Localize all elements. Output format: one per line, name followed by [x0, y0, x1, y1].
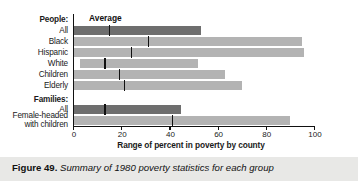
average-tick-people-all [109, 25, 110, 36]
x-tick-60 [218, 126, 219, 130]
average-tick-people-children [119, 69, 120, 80]
row-label-people-elderly: Elderly [0, 80, 68, 91]
row-label-people-black: Black [0, 36, 68, 47]
chart-plot-area: People: Average All Black Hispanic White [0, 0, 358, 152]
x-tick-label-0: 0 [72, 130, 76, 139]
average-tick-people-hispanic [131, 47, 132, 58]
x-tick-20 [121, 126, 122, 130]
x-tick-100 [314, 126, 315, 130]
chart-row-people-elderly: Elderly [0, 80, 358, 91]
figure-caption: Figure 49. Summary of 1980 poverty stati… [12, 162, 274, 173]
bar-people-black [73, 37, 302, 46]
x-tick-label-20: 20 [118, 130, 127, 139]
row-label-people-all: All [0, 25, 68, 36]
chart-row-people-white: White [0, 58, 358, 69]
x-tick-label-100: 100 [308, 130, 321, 139]
row-label-line-2: with children [0, 121, 68, 130]
x-axis-title: Range of percent in poverty by county [117, 140, 265, 150]
group-heading-people-row: People: [0, 14, 358, 25]
row-label-families-female-headed: Female-headed with children [0, 112, 68, 130]
chart-row-people-all: All [0, 25, 358, 36]
bar-people-white [80, 59, 198, 68]
row-label-people-white: White [0, 58, 68, 69]
x-tick-40 [169, 126, 170, 130]
x-tick-0 [73, 126, 74, 130]
average-annotation: Average [89, 13, 122, 23]
caption-divider [0, 155, 358, 156]
figure-caption-label: Figure 49. [12, 162, 57, 173]
row-label-people-hispanic: Hispanic [0, 47, 68, 58]
average-tick-families-female-headed [172, 115, 173, 126]
bar-people-hispanic [73, 48, 304, 57]
figure-caption-band: Figure 49. Summary of 1980 poverty stati… [0, 157, 358, 181]
x-axis-title-wrapper: Range of percent in poverty by county [0, 140, 358, 150]
x-tick-label-60: 60 [214, 130, 223, 139]
chart-row-people-children: Children [0, 69, 358, 80]
figure-caption-text: Summary of 1980 poverty statistics for e… [60, 162, 274, 173]
bar-people-elderly [73, 81, 242, 90]
bar-families-all [73, 105, 181, 114]
average-tick-people-white [104, 58, 105, 69]
figure-poverty-statistics: People: Average All Black Hispanic White [0, 0, 358, 181]
chart-row-people-black: Black [0, 36, 358, 47]
average-tick-people-elderly [124, 80, 125, 91]
chart-row-people-hispanic: Hispanic [0, 47, 358, 58]
row-label-people-children: Children [0, 69, 68, 80]
x-tick-80 [266, 126, 267, 130]
x-tick-label-80: 80 [262, 130, 271, 139]
x-axis-line [73, 126, 315, 127]
bar-people-all [73, 26, 201, 35]
bar-people-children [73, 70, 225, 79]
y-axis-line [73, 14, 74, 126]
bar-families-female-headed [73, 116, 290, 125]
average-tick-people-black [148, 36, 149, 47]
chart-row-families-female-headed: Female-headed with children [0, 115, 358, 126]
average-tick-families-all [104, 104, 105, 115]
x-tick-label-40: 40 [166, 130, 175, 139]
group-heading-people: People: [0, 14, 68, 25]
